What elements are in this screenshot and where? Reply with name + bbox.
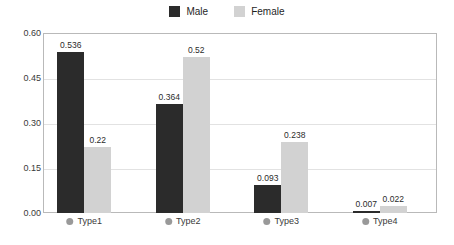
category-bullet-icon [362, 218, 369, 225]
category-label-type1[interactable]: Type1 [66, 216, 102, 226]
category-bullet-icon [263, 218, 270, 225]
category-label-text: Type2 [176, 216, 201, 226]
bar-value-label: 0.022 [383, 194, 404, 204]
y-axis-tick-label: 0.15 [3, 163, 41, 173]
y-axis: 0.000.150.300.450.60 [0, 33, 41, 213]
bar-type2-male [156, 104, 183, 213]
legend-label: Male [186, 6, 208, 17]
category-label-text: Type3 [274, 216, 299, 226]
bar-type4-male [353, 211, 380, 214]
legend-swatch-male-icon [169, 6, 180, 17]
category-axis: Type1Type2Type3Type4 [43, 216, 437, 238]
bar-value-label: 0.536 [60, 40, 81, 50]
bar-value-label: 0.238 [284, 130, 305, 140]
category-label-type3[interactable]: Type3 [263, 216, 299, 226]
bar-value-label: 0.22 [89, 135, 106, 145]
category-label-type4[interactable]: Type4 [362, 216, 398, 226]
category-label-text: Type1 [77, 216, 102, 226]
y-axis-tick-label: 0.45 [3, 73, 41, 83]
bar-value-label: 0.093 [257, 173, 278, 183]
y-axis-tick-label: 0.60 [3, 28, 41, 38]
category-label-type2[interactable]: Type2 [165, 216, 201, 226]
chart-legend: MaleFemale [0, 6, 454, 17]
legend-item-male[interactable]: Male [169, 6, 208, 17]
y-axis-tick-label: 0.00 [3, 208, 41, 218]
category-bullet-icon [165, 218, 172, 225]
category-bullet-icon [66, 218, 73, 225]
bar-value-label: 0.52 [188, 45, 205, 55]
y-axis-tick-label: 0.30 [3, 118, 41, 128]
bar-type3-male [254, 185, 281, 213]
bar-type4-female [380, 206, 407, 213]
bars-layer: 0.5360.220.3640.520.0930.2380.0070.022 [43, 33, 437, 213]
legend-label: Female [251, 6, 284, 17]
category-label-text: Type4 [373, 216, 398, 226]
bar-type2-female [183, 57, 210, 213]
bar-type3-female [281, 142, 308, 213]
legend-swatch-female-icon [234, 6, 245, 17]
bar-type1-male [57, 52, 84, 213]
bar-type1-female [84, 147, 111, 213]
legend-item-female[interactable]: Female [234, 6, 284, 17]
bar-value-label: 0.007 [356, 199, 377, 209]
bar-chart: MaleFemale 0.000.150.300.450.60 0.5360.2… [0, 0, 454, 245]
bar-value-label: 0.364 [159, 92, 180, 102]
